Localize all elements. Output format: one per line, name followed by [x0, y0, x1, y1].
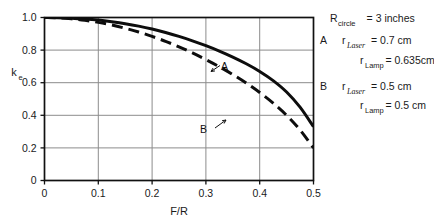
- curve-label-a: A: [221, 60, 228, 72]
- x-tick-label: 0: [42, 187, 48, 199]
- legend-symbol-base: r: [360, 54, 364, 66]
- y-axis-label-subscript: e: [19, 73, 23, 82]
- legend-value: = 0.7 cm: [371, 34, 412, 46]
- legend-value: = 0.635cm: [385, 54, 434, 66]
- y-tick-label: 0.8: [22, 44, 37, 56]
- x-tick-label: 0.1: [91, 187, 106, 199]
- x-tick-label: 0.3: [199, 187, 214, 199]
- y-tick-label: 0.4: [22, 109, 37, 121]
- legend-symbol-subscript: Laser: [346, 87, 366, 96]
- y-tick-label: 0.6: [22, 76, 37, 88]
- legend-series-letter: A: [320, 34, 327, 46]
- legend-symbol-base: r: [360, 99, 364, 111]
- legend-series-letter: B: [320, 80, 327, 92]
- legend-symbol-subscript: Lamp: [365, 106, 384, 115]
- legend-value: = 3 inches: [367, 12, 415, 24]
- legend-symbol-subscript: Lamp: [365, 61, 384, 70]
- legend-symbol-base: r: [342, 80, 346, 92]
- plot-area: 00.10.20.30.40.5 00.20.40.60.81.0 AB F/R…: [0, 0, 434, 223]
- legend-symbol-base: r: [342, 34, 346, 46]
- x-tick-label: 0.5: [306, 187, 321, 199]
- legend-symbol-base: R: [330, 12, 338, 24]
- chart-figure: 00.10.20.30.40.5 00.20.40.60.81.0 AB F/R…: [0, 0, 434, 223]
- legend-symbol-subscript: circle: [338, 19, 356, 28]
- legend-symbol-subscript: Laser: [346, 41, 366, 50]
- y-tick-label: 0.2: [22, 142, 37, 154]
- y-tick-label: 1.0: [22, 11, 37, 23]
- curve-label-b: B: [200, 123, 207, 135]
- x-tick-label: 0.2: [145, 187, 160, 199]
- y-tick-label: 0: [31, 174, 37, 186]
- legend-value: = 0.5 cm: [371, 80, 412, 92]
- legend-value: = 0.5 cm: [385, 99, 426, 111]
- y-axis-label-base: k: [11, 66, 17, 78]
- x-axis-label: F/R: [170, 205, 188, 217]
- x-tick-label: 0.4: [252, 187, 267, 199]
